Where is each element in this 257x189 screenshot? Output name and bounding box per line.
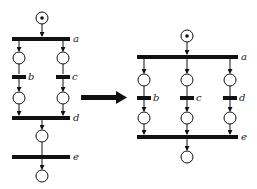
transition-d xyxy=(223,96,237,100)
label-b: b xyxy=(28,71,34,82)
transition-a xyxy=(137,55,238,59)
transition-a xyxy=(12,37,70,41)
place xyxy=(181,74,193,86)
transition-d xyxy=(12,116,70,120)
place xyxy=(13,52,25,64)
label-c: c xyxy=(72,71,78,82)
label-d: d xyxy=(73,112,79,123)
token xyxy=(40,16,44,20)
place xyxy=(57,92,69,104)
transition-e xyxy=(137,135,238,139)
left-net xyxy=(12,12,70,182)
place xyxy=(224,112,236,124)
label-e: e xyxy=(241,131,247,142)
transition-e xyxy=(12,155,70,159)
place xyxy=(138,74,150,86)
place xyxy=(13,92,25,104)
petri-net-diagram: a b c d e a b c xyxy=(0,0,257,189)
place xyxy=(57,52,69,64)
place xyxy=(181,112,193,124)
transition-c xyxy=(56,75,70,79)
label-a: a xyxy=(73,33,79,44)
label-c: c xyxy=(196,92,202,103)
label-d: d xyxy=(239,92,245,103)
place xyxy=(138,112,150,124)
transform-arrow-icon xyxy=(81,91,127,104)
label-e: e xyxy=(73,151,79,162)
label-a: a xyxy=(241,51,247,62)
token xyxy=(185,34,189,38)
place-end xyxy=(181,151,193,163)
transition-c xyxy=(180,96,194,100)
place xyxy=(224,74,236,86)
place xyxy=(36,130,48,142)
transition-b xyxy=(12,75,26,79)
label-b: b xyxy=(153,92,159,103)
transition-b xyxy=(137,96,151,100)
place-end xyxy=(36,170,48,182)
